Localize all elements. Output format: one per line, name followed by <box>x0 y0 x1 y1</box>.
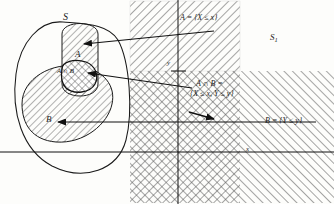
axis-tick-label-y: y <box>167 60 170 67</box>
plane-label-s1: S1 <box>270 33 278 43</box>
plane-region-b <box>240 71 334 203</box>
annotation-ab-definition-line2: {X ≤ x, Y ≤ y} <box>190 90 234 98</box>
venn-label-a: A <box>75 50 81 59</box>
plane-label-subscript: 1 <box>275 36 278 43</box>
annotation-b-definition: B = {Y ≤ y} <box>265 117 302 125</box>
venn-label-b: B <box>46 115 52 124</box>
annotation-ab-definition-line1: A ∩ B = <box>196 80 223 88</box>
plane-region-a <box>130 1 240 71</box>
venn-label-a-intersect-b: A ∩ B <box>57 68 74 75</box>
annotation-a-definition: A = {X ≤ x} <box>180 14 217 22</box>
figure-canvas: S A A ∩ B B S1 A = {X ≤ x} A ∩ B = {X ≤ … <box>0 0 334 204</box>
sample-space-label: S <box>63 12 68 22</box>
diagram-svg <box>0 0 334 204</box>
axis-tick-label-x: x <box>246 146 249 153</box>
